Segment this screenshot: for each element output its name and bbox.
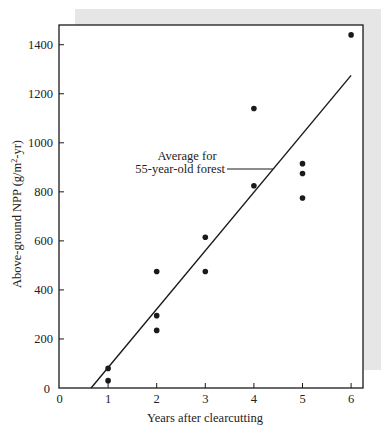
y-tick-label: 0 <box>44 382 50 396</box>
chart-canvas: 0200400600800100012001400 0123456 Averag… <box>0 0 392 434</box>
data-point <box>251 106 257 112</box>
data-point <box>105 378 111 384</box>
x-tick-label: 4 <box>251 392 258 406</box>
x-tick-label: 3 <box>202 392 208 406</box>
data-point <box>154 328 160 334</box>
data-point <box>154 313 160 319</box>
annotation-line-1: Average for <box>157 149 217 163</box>
y-label-post: -yr) <box>10 140 24 159</box>
annotation-line-2: 55-year-old forest <box>135 162 225 176</box>
y-tick-label: 400 <box>34 283 53 297</box>
data-point <box>154 269 160 275</box>
y-tick-label: 600 <box>34 234 53 248</box>
data-point <box>300 161 306 167</box>
x-axis-label: Years after clearcutting <box>147 411 264 425</box>
data-point <box>348 32 354 38</box>
x-tick-label: 0 <box>56 392 62 406</box>
y-tick-label: 1400 <box>28 38 53 52</box>
plot-area <box>59 25 363 388</box>
y-label-pre: Above-ground NPP (g/m <box>10 162 24 288</box>
y-tick-label: 1200 <box>28 87 53 101</box>
data-point <box>251 183 257 189</box>
x-tick-label: 2 <box>154 392 160 406</box>
y-tick-label: 1000 <box>28 136 53 150</box>
data-point <box>105 366 111 372</box>
data-point <box>300 195 306 201</box>
y-tick-label: 800 <box>34 185 53 199</box>
data-point <box>203 269 209 275</box>
x-tick-label: 1 <box>105 392 111 406</box>
data-point <box>203 234 209 240</box>
x-tick-label: 5 <box>299 392 305 406</box>
x-tick-label: 6 <box>348 392 354 406</box>
y-tick-label: 200 <box>34 332 53 346</box>
y-axis-label: Above-ground NPP (g/m2-yr) <box>10 140 25 288</box>
data-point <box>300 171 306 177</box>
